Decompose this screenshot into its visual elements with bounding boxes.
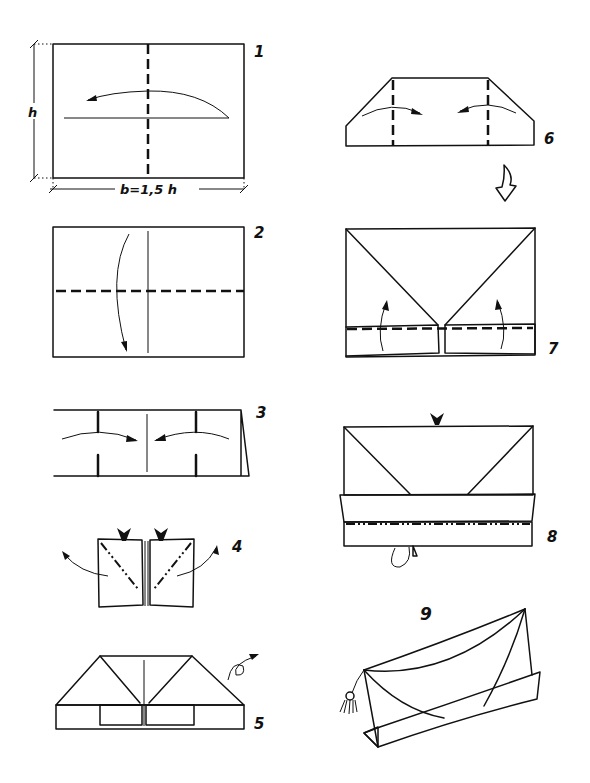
step-number: 6 (544, 130, 554, 148)
step-number: 5 (254, 715, 264, 733)
step-number: 9 (420, 604, 432, 624)
height-label: h (28, 105, 37, 120)
step-8: 8 (340, 413, 557, 567)
origami-hat-diagram: b=1,5 h h 1 2 3 (0, 0, 590, 783)
step-4: 4 (62, 528, 242, 607)
step-number: 7 (548, 340, 559, 358)
step-7: 7 (346, 228, 559, 358)
step-number: 8 (547, 528, 557, 546)
step-6: 6 (346, 78, 554, 201)
width-label: b=1,5 h (120, 182, 177, 197)
step-number: 4 (231, 538, 242, 556)
step-number: 1 (254, 43, 264, 61)
step-number: 2 (254, 224, 264, 242)
step-1: b=1,5 h h 1 (25, 40, 264, 197)
step-number: 3 (256, 404, 266, 422)
step-5: 5 (56, 654, 264, 733)
step-2: 2 (53, 224, 264, 357)
turn-arrow-icon (496, 165, 516, 201)
step-9: 9 (340, 604, 540, 747)
step-3: 3 (54, 404, 266, 476)
